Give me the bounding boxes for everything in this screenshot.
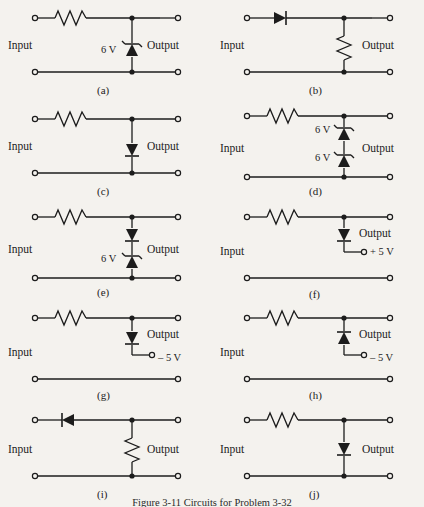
output-label: Output [359,329,391,341]
input-terminal-bottom[interactable] [244,376,249,381]
output-terminal-top[interactable] [175,417,180,422]
input-label: Input [8,141,32,153]
bias-terminal[interactable] [149,352,154,357]
circuit-g: Input Output – 5 V (g) [0,303,212,404]
junction-dot [341,473,346,478]
junction-dot [129,473,134,478]
voltage-label: 6 V [101,254,116,265]
voltage-label-bottom: 6 V [315,153,330,164]
input-terminal-top[interactable] [32,417,37,422]
output-label: Output [147,244,179,256]
input-terminal-top[interactable] [32,15,37,20]
diode-icon [337,332,351,344]
circuit-d: Input Output 6 V 6 V (d) [212,101,424,202]
input-label: Input [8,244,32,256]
input-terminal-top[interactable] [244,113,249,118]
circuit-tag: (d) [309,186,322,197]
output-terminal-top[interactable] [175,15,180,20]
circuit-j: Input Output (j) [212,404,424,505]
output-terminal-bottom[interactable] [387,473,392,478]
zener-diode-icon [122,41,142,56]
junction-dot [341,69,346,74]
input-terminal-top[interactable] [32,116,37,121]
circuit-tag: (h) [309,390,322,401]
junction-dot [341,113,346,118]
input-label: Input [8,347,32,359]
bias-terminal[interactable] [361,249,366,254]
voltage-label: 6 V [101,45,116,56]
junction-dot [341,417,346,422]
junction-dot [129,69,134,74]
output-terminal-top[interactable] [175,116,180,121]
diode-icon [62,413,74,427]
output-label: Output [147,444,179,456]
output-terminal-top[interactable] [387,417,392,422]
input-terminal-top[interactable] [244,214,249,219]
output-label: Output [362,40,394,52]
input-terminal-top[interactable] [32,315,37,320]
output-terminal-top[interactable] [387,113,392,118]
diode-icon [337,229,351,241]
diode-icon [125,332,139,344]
voltage-label-top: 6 V [315,125,330,136]
junction-dot [341,174,346,179]
output-terminal-bottom[interactable] [387,376,392,381]
input-label: Input [8,444,32,456]
output-label: Output [147,329,179,341]
input-terminal-bottom[interactable] [32,170,37,175]
input-terminal-bottom[interactable] [32,69,37,74]
bias-voltage-label: + 5 V [370,247,394,258]
output-terminal-top[interactable] [387,315,392,320]
junction-dot [341,214,346,219]
input-terminal-bottom[interactable] [244,174,249,179]
junction-dot [129,214,134,219]
output-terminal-bottom[interactable] [175,69,180,74]
junction-dot [129,170,134,175]
input-terminal-top[interactable] [244,315,249,320]
input-terminal-bottom[interactable] [244,275,249,280]
input-label: Input [220,347,244,359]
output-terminal-bottom[interactable] [387,174,392,179]
bias-terminal[interactable] [361,352,366,357]
circuit-tag: (c) [97,186,109,197]
circuit-i: Input Output (i) [0,404,212,505]
figure-page: Input Output 6 V (a) [0,0,424,507]
output-terminal-top[interactable] [387,214,392,219]
input-terminal-top[interactable] [244,15,249,20]
output-label: Output [362,143,394,155]
bias-voltage-label: – 5 V [370,353,393,364]
output-terminal-bottom[interactable] [175,275,180,280]
output-label: Output [359,228,391,240]
input-terminal-bottom[interactable] [32,275,37,280]
output-terminal-top[interactable] [175,315,180,320]
output-terminal-top[interactable] [175,214,180,219]
junction-dot [129,417,134,422]
circuit-tag: (e) [97,287,109,298]
diode-icon [274,11,286,25]
output-terminal-top[interactable] [387,15,392,20]
input-terminal-bottom[interactable] [244,473,249,478]
input-terminal-top[interactable] [32,214,37,219]
input-label: Input [220,246,244,258]
zener-diode-icon [122,253,142,268]
input-terminal-bottom[interactable] [32,473,37,478]
output-terminal-bottom[interactable] [175,170,180,175]
input-terminal-bottom[interactable] [32,376,37,381]
junction-dot [341,315,346,320]
diode-icon [337,443,351,455]
output-terminal-bottom[interactable] [175,376,180,381]
circuit-tag: (b) [309,85,322,96]
circuit-f: Input Output + 5 V (f) [212,202,424,303]
junction-dot [129,315,134,320]
output-terminal-bottom[interactable] [387,275,392,280]
input-terminal-top[interactable] [244,417,249,422]
circuit-a: Input Output 6 V (a) [0,0,212,101]
output-terminal-bottom[interactable] [387,69,392,74]
junction-dot [341,15,346,20]
output-terminal-bottom[interactable] [175,473,180,478]
input-terminal-bottom[interactable] [244,69,249,74]
zener-diode-icon-upper [334,125,354,140]
circuit-tag: (a) [97,85,109,96]
diode-icon [125,229,139,241]
junction-dot [129,275,134,280]
